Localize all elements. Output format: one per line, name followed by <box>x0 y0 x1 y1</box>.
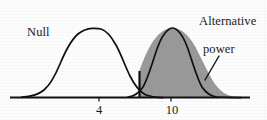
power-leader-line <box>205 56 219 80</box>
power-region-label: power <box>203 43 235 56</box>
power-diagram-figure: Null Alternative power 4 10 <box>0 0 267 120</box>
power-shaded-region <box>139 28 240 97</box>
x-axis-tick-label-4: 4 <box>92 104 106 117</box>
alternative-curve-label: Alternative <box>199 15 256 28</box>
x-axis-tick-label-10: 10 <box>163 104 181 117</box>
null-curve-label: Null <box>27 26 50 39</box>
